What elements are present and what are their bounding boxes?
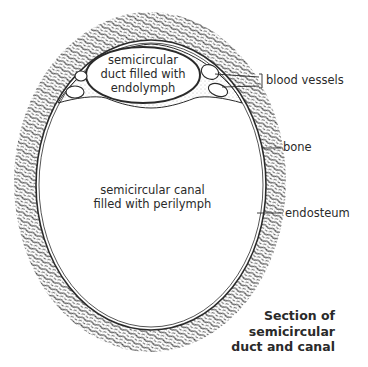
endosteum-label: endosteum [285,206,350,220]
duct-label-line-2: duct filled with [93,67,193,81]
canal-label-line-2: filled with perilymph [90,197,215,211]
blood-vessels-label: blood vessels [266,73,344,87]
duct-label-line-1: semicircular [93,53,193,67]
figure-caption: Section of semicircular duct and canal [231,308,335,355]
canal-label: semicircular canal filled with perilymph [90,183,215,211]
duct-label-line-3: endolymph [93,81,193,95]
bone-label: bone [283,140,312,154]
caption-line-1: Section of [231,308,335,324]
canal-label-line-1: semicircular canal [90,183,215,197]
caption-line-3: duct and canal [231,339,335,355]
duct-label: semicircular duct filled with endolymph [93,53,193,95]
caption-line-2: semicircular [231,324,335,340]
